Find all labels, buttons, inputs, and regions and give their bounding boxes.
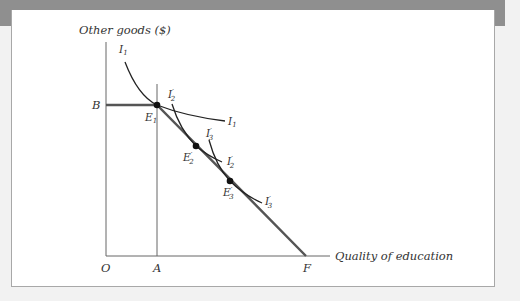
label-E2-prime: E′2 [182,151,194,166]
label-B: B [91,98,100,112]
label-I2-prime-end: I′2 [226,155,235,170]
label-E1: E1 [144,111,157,125]
label-E3-prime: E′3 [222,186,234,201]
point-E1 [154,102,161,109]
label-A: A [152,261,161,275]
label-I1-end: I1 [227,115,237,129]
label-I3-prime-end: I′3 [264,195,273,210]
y-axis-label: Other goods ($) [79,23,171,37]
label-O: O [101,261,111,275]
label-I1-top: I1 [118,43,128,57]
point-E3-prime [227,178,234,185]
x-axis-label: Quality of education [335,249,453,263]
indifference-curve-I3-prime [209,140,262,203]
label-I3-prime-top: I′3 [205,127,214,142]
point-E2-prime [193,143,200,150]
education-voucher-diagram: Other goods ($) Quality of education O A… [0,0,520,301]
label-I2-prime-top: I′2 [167,88,176,103]
label-F: F [302,261,312,275]
